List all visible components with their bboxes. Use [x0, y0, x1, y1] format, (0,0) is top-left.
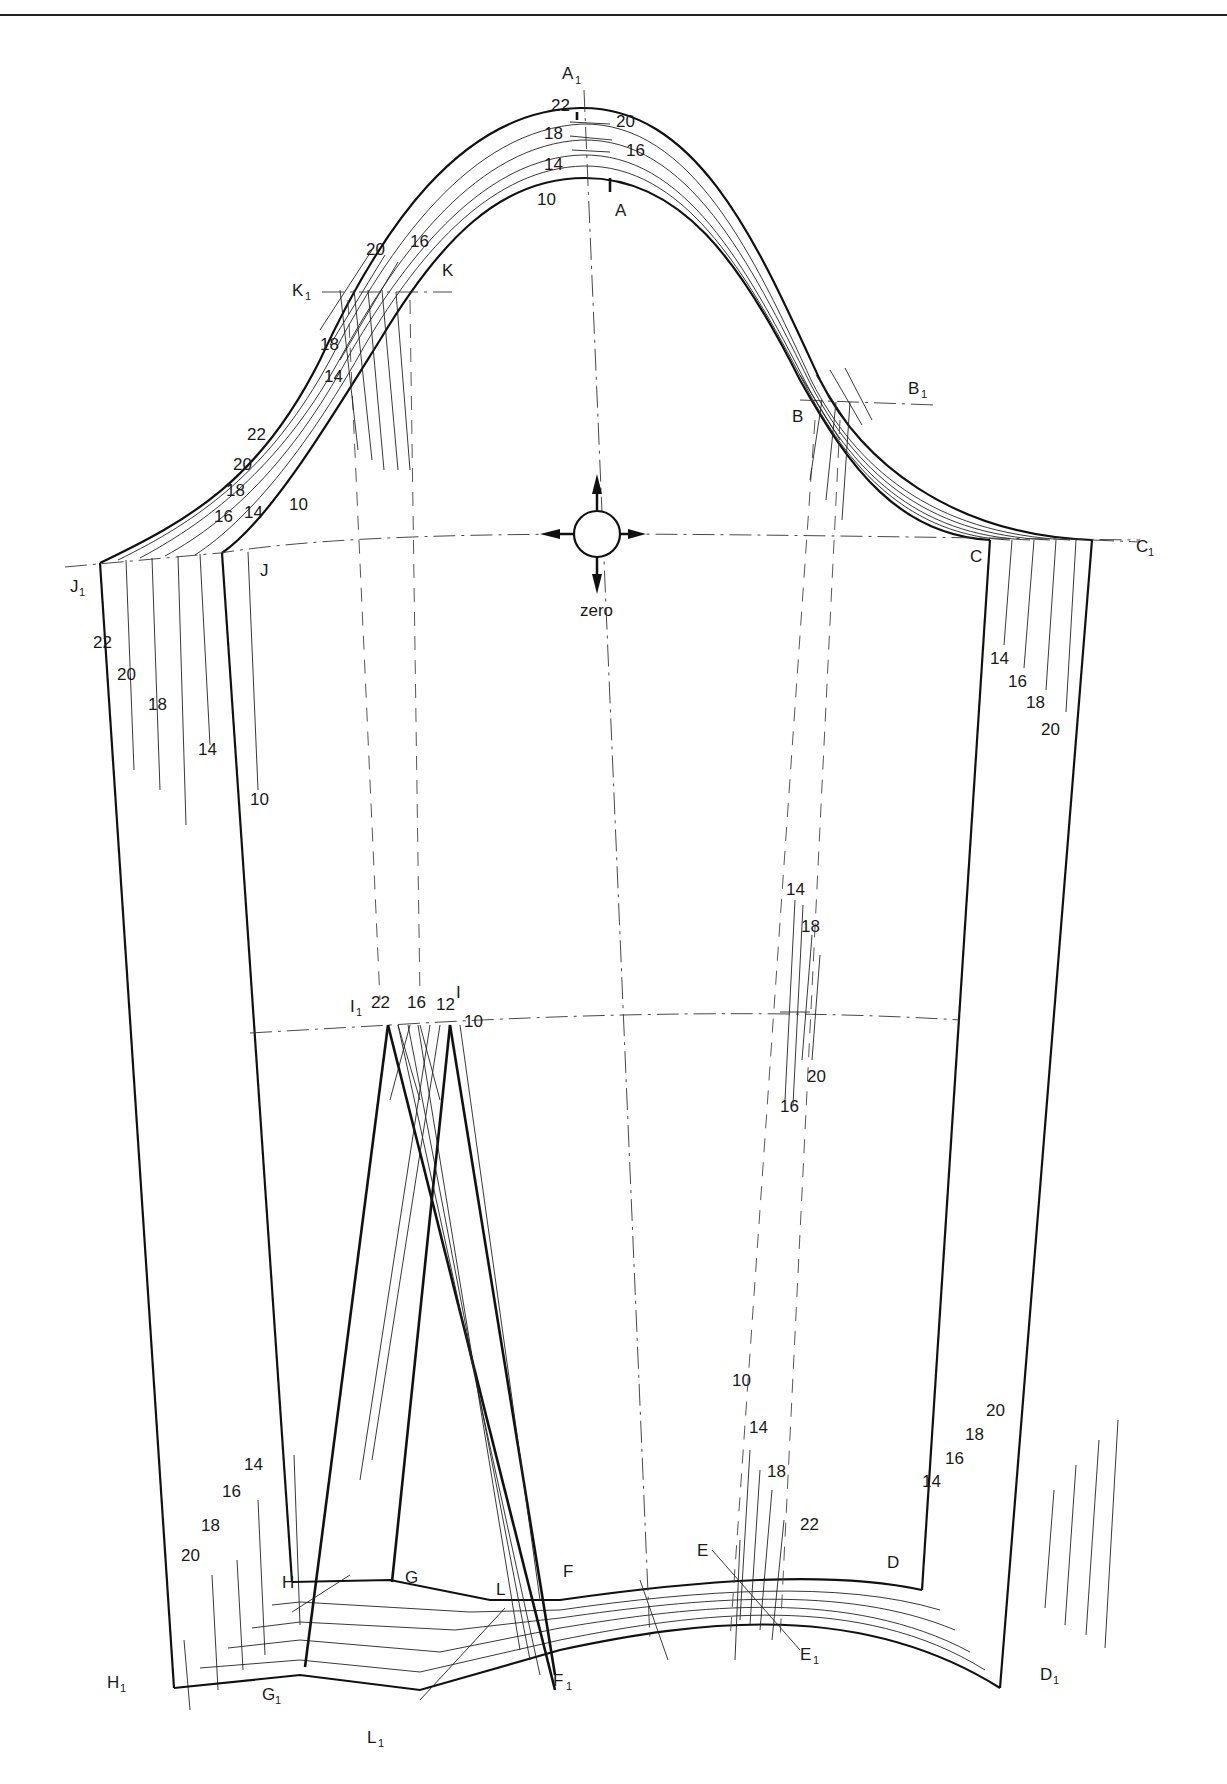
- outer-right-seam: [1000, 540, 1092, 1688]
- left-grade-seams: [126, 552, 300, 1710]
- centre-grain-line: [584, 90, 650, 1640]
- zero-label: zero: [580, 601, 613, 620]
- svg-text:10: 10: [732, 1371, 751, 1390]
- svg-text:F: F: [553, 1671, 563, 1690]
- svg-text:1: 1: [305, 290, 311, 302]
- svg-text:1: 1: [921, 388, 927, 400]
- svg-text:10: 10: [464, 1012, 483, 1031]
- crown-grade-labels: 22 20 18 16 14 10: [537, 96, 645, 209]
- svg-text:E: E: [800, 1645, 811, 1664]
- back-pitch-guide-2: [780, 420, 840, 1640]
- svg-text:J: J: [260, 561, 269, 580]
- f-seam-guide: [640, 1580, 668, 1660]
- svg-text:F: F: [563, 1562, 573, 1581]
- svg-text:G: G: [405, 1568, 418, 1587]
- elbow-right-grade-labels: 14 18 20 16: [780, 880, 826, 1116]
- svg-text:H: H: [107, 1673, 119, 1692]
- svg-text:E: E: [697, 1541, 708, 1560]
- svg-text:10: 10: [289, 495, 308, 514]
- e-line: [712, 1550, 800, 1650]
- svg-text:18: 18: [1026, 693, 1045, 712]
- svg-text:C: C: [1136, 537, 1148, 556]
- inner-sleeve-cap: [222, 178, 990, 553]
- hem-mid-grade-labels: 10 14 18 22: [732, 1371, 819, 1534]
- svg-text:10: 10: [537, 190, 556, 209]
- svg-text:14: 14: [922, 1472, 941, 1491]
- svg-text:14: 14: [990, 649, 1009, 668]
- svg-text:22: 22: [247, 425, 266, 444]
- svg-text:1: 1: [575, 74, 581, 86]
- svg-text:B: B: [908, 379, 919, 398]
- svg-text:1: 1: [120, 1682, 126, 1694]
- svg-text:18: 18: [148, 695, 167, 714]
- svg-text:1: 1: [275, 1694, 281, 1706]
- svg-text:20: 20: [986, 1401, 1005, 1420]
- sleeve-pattern-diagram: zero A1 A K1 K B B1 C C1 J1 J I1 I H H1 …: [0, 0, 1227, 1784]
- right-seam-grade-labels: 14 16 18 20: [990, 649, 1060, 739]
- l-line: [420, 1608, 505, 1700]
- svg-text:16: 16: [214, 507, 233, 526]
- svg-text:20: 20: [233, 455, 252, 474]
- svg-text:14: 14: [244, 503, 263, 522]
- svg-text:18: 18: [201, 1516, 220, 1535]
- svg-text:J: J: [70, 577, 79, 596]
- svg-text:1: 1: [566, 1680, 572, 1692]
- svg-text:16: 16: [780, 1097, 799, 1116]
- svg-text:1: 1: [1148, 546, 1154, 558]
- svg-text:14: 14: [244, 1455, 263, 1474]
- svg-text:18: 18: [965, 1425, 984, 1444]
- inner-left-seam: [222, 553, 292, 1582]
- inner-hem: [292, 1579, 922, 1600]
- svg-text:A: A: [562, 64, 574, 83]
- svg-text:I: I: [350, 997, 355, 1016]
- svg-text:16: 16: [222, 1482, 241, 1501]
- svg-text:K: K: [442, 261, 454, 280]
- svg-text:14: 14: [749, 1418, 768, 1437]
- svg-text:1: 1: [356, 1006, 362, 1018]
- svg-text:I: I: [456, 983, 461, 1002]
- svg-text:18: 18: [226, 481, 245, 500]
- svg-text:20: 20: [616, 112, 635, 131]
- svg-text:16: 16: [945, 1449, 964, 1468]
- svg-text:18: 18: [767, 1462, 786, 1481]
- svg-text:D: D: [1040, 1665, 1052, 1684]
- svg-text:14: 14: [198, 740, 217, 759]
- svg-text:16: 16: [1008, 672, 1027, 691]
- svg-text:14: 14: [786, 880, 805, 899]
- svg-text:L: L: [496, 1580, 505, 1599]
- back-pitch-guide: [730, 420, 815, 1640]
- svg-text:10: 10: [250, 790, 269, 809]
- c-guide: [1092, 540, 1140, 542]
- svg-text:16: 16: [407, 993, 426, 1012]
- svg-text:22: 22: [551, 96, 570, 115]
- k-grade-hatch: [320, 250, 410, 470]
- svg-text:20: 20: [807, 1067, 826, 1086]
- outer-hem: [174, 1624, 1000, 1690]
- svg-text:20: 20: [366, 240, 385, 259]
- svg-text:1: 1: [813, 1654, 819, 1666]
- svg-text:12: 12: [436, 995, 455, 1014]
- svg-text:22: 22: [371, 993, 390, 1012]
- svg-text:22: 22: [800, 1515, 819, 1534]
- svg-text:22: 22: [93, 633, 112, 652]
- svg-text:16: 16: [626, 141, 645, 160]
- front-cap-grade-labels: 22 20 18 16 14 10: [214, 425, 308, 526]
- svg-text:1: 1: [79, 586, 85, 598]
- right-grade-seams: [1004, 540, 1118, 1648]
- svg-text:C: C: [970, 547, 982, 566]
- outer-left-seam: [100, 563, 174, 1688]
- svg-text:18: 18: [801, 917, 820, 936]
- svg-text:16: 16: [410, 232, 429, 251]
- hem-left-grade-labels: 14 16 18 20: [181, 1455, 263, 1565]
- svg-text:1: 1: [1053, 1674, 1059, 1686]
- svg-text:20: 20: [181, 1546, 200, 1565]
- svg-text:1: 1: [378, 1737, 384, 1749]
- svg-text:18: 18: [544, 124, 563, 143]
- svg-text:B: B: [792, 407, 803, 426]
- hem-mid-grade: [735, 1450, 784, 1660]
- svg-text:A: A: [615, 201, 627, 220]
- front-pitch-guide-2: [410, 300, 420, 1000]
- svg-text:D: D: [887, 1553, 899, 1572]
- svg-text:18: 18: [320, 335, 339, 354]
- svg-text:L: L: [367, 1728, 376, 1747]
